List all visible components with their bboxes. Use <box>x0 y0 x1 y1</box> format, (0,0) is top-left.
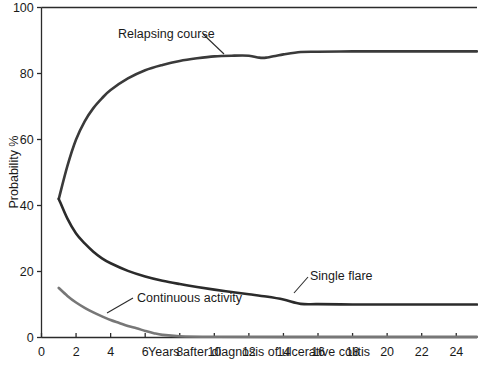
chart-figure: 024681012141618202224020406080100 Years … <box>0 0 478 369</box>
x-tick-label: 24 <box>449 345 463 359</box>
y-tick-label: 20 <box>0 265 34 279</box>
chart-canvas <box>0 0 478 369</box>
x-tick-label: 20 <box>380 345 394 359</box>
x-tick-label: 2 <box>73 345 80 359</box>
y-tick-label: 100 <box>0 1 34 15</box>
x-tick-label: 0 <box>38 345 45 359</box>
y-tick-label: 0 <box>0 331 34 345</box>
y-tick-label: 80 <box>0 67 34 81</box>
series-label-continuous-activity: Continuous activity <box>137 291 242 305</box>
x-axis-title: Years after diagnosis of ulcerative coli… <box>148 345 370 359</box>
y-axis-title: Probability % <box>7 136 21 209</box>
x-tick-label: 22 <box>415 345 429 359</box>
x-tick-label: 4 <box>107 345 114 359</box>
series-label-relapsing-course: Relapsing course <box>118 27 215 41</box>
series-label-single-flare: Single flare <box>310 269 373 283</box>
